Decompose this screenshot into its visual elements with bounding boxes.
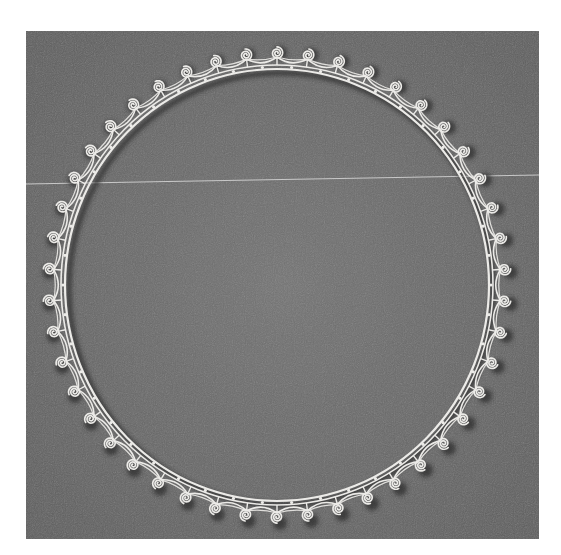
quilled-ring-photo — [0, 0, 561, 555]
gray-background-panel — [26, 31, 539, 539]
